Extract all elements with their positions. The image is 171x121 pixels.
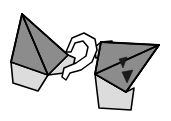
geometry-diagram <box>0 0 171 121</box>
figure-canvas <box>0 0 171 121</box>
